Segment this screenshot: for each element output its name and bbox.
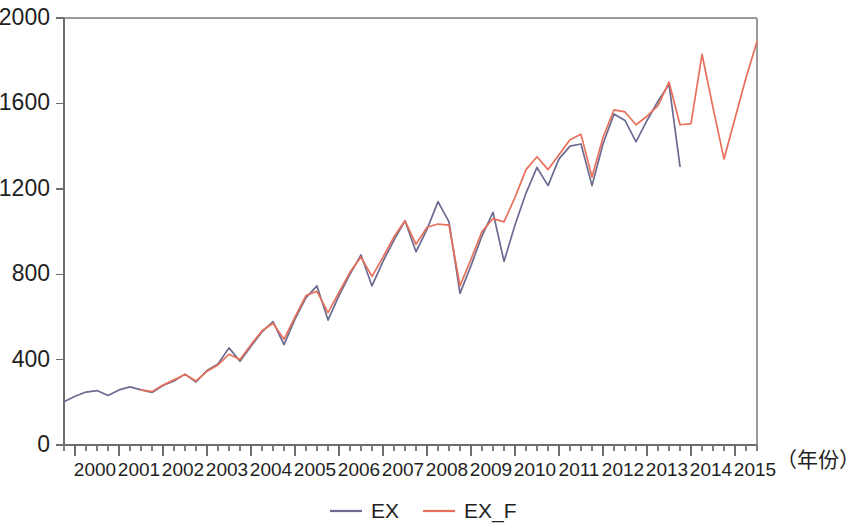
line-chart: 0400800120016002000 20002001200220032004… xyxy=(0,0,860,529)
x-tick-group xyxy=(64,445,757,456)
y-tick-label: 2000 xyxy=(0,4,50,30)
legend-label-ex: EX xyxy=(371,499,399,522)
y-tick-label: 1200 xyxy=(0,175,50,201)
legend-label-ex_f: EX_F xyxy=(464,499,517,523)
x-tick-label: 2004 xyxy=(250,459,293,480)
y-tick-label: 400 xyxy=(12,346,50,372)
series-group xyxy=(64,41,757,401)
y-tick-label: 800 xyxy=(12,260,50,286)
x-tick-label: 2001 xyxy=(118,459,160,480)
chart-legend: EXEX_F xyxy=(330,499,517,523)
y-tick-label-group: 0400800120016002000 xyxy=(0,4,50,457)
x-tick-label: 2012 xyxy=(602,459,644,480)
x-axis: 2000200120022003200420052006200720082009… xyxy=(64,445,776,480)
x-tick-label: 2006 xyxy=(338,459,380,480)
x-tick-label: 2014 xyxy=(690,459,733,480)
x-tick-label: 2003 xyxy=(206,459,248,480)
x-tick-label: 2013 xyxy=(646,459,688,480)
x-tick-label: 2011 xyxy=(559,459,600,480)
x-tick-label: 2002 xyxy=(162,459,204,480)
x-tick-label: 2007 xyxy=(382,459,424,480)
y-tick-label: 1600 xyxy=(0,89,50,115)
series-line-ex xyxy=(64,84,680,401)
x-axis-caption: （年份） xyxy=(776,448,860,471)
chart-container: 0400800120016002000 20002001200220032004… xyxy=(0,0,860,529)
y-tick-label: 0 xyxy=(37,431,50,457)
x-tick-label: 2008 xyxy=(426,459,468,480)
series-line-ex_f xyxy=(141,41,757,391)
x-tick-label: 2015 xyxy=(734,459,776,480)
x-tick-label: 2005 xyxy=(294,459,336,480)
y-tick-group xyxy=(56,18,64,445)
x-tick-label-group: 2000200120022003200420052006200720082009… xyxy=(74,459,776,480)
x-tick-label: 2009 xyxy=(470,459,512,480)
x-tick-label: 2000 xyxy=(74,459,116,480)
y-axis: 0400800120016002000 xyxy=(0,4,64,457)
x-tick-label: 2010 xyxy=(514,459,556,480)
